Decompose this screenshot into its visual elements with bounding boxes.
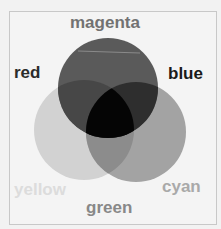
label-red: red bbox=[14, 64, 40, 81]
label-magenta: magenta bbox=[70, 14, 140, 31]
label-cyan: cyan bbox=[162, 178, 201, 195]
label-yellow: yellow bbox=[14, 181, 66, 198]
label-blue: blue bbox=[168, 65, 203, 82]
label-green: green bbox=[86, 199, 132, 216]
